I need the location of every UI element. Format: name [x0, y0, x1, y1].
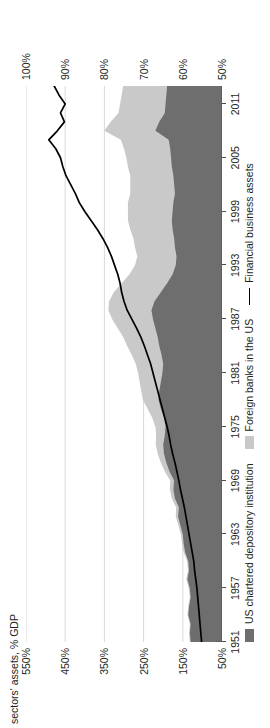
right-axis-tick-label: 100%: [20, 53, 32, 80]
x-axis-tick-label: 1975: [229, 415, 241, 438]
legend-line-swatch: [249, 288, 250, 305]
right-axis-tick-label: 90%: [59, 59, 71, 80]
x-axis-tick-mark: [222, 587, 226, 588]
right-axis-tick-label: 80%: [98, 59, 110, 80]
left-axis-tick-label: 450%: [59, 648, 71, 675]
x-axis-tick-mark: [222, 533, 226, 534]
x-axis-tick-mark: [222, 157, 226, 158]
plot-area: 50%150%250%350%450%550% 50%60%70%80%90%1…: [26, 86, 222, 642]
right-axis-tick-label: 70%: [138, 59, 150, 80]
left-axis-tick-label: 350%: [98, 648, 110, 675]
x-axis-tick-label: 1969: [229, 469, 241, 492]
x-axis-tick-label: 1957: [229, 577, 241, 600]
chart-svg: [26, 86, 222, 642]
x-axis-tick-mark: [222, 641, 226, 642]
x-axis-tick-mark: [222, 318, 226, 319]
rotated-chart-frame: sectors' assets, % GDP 50%150%250%350%45…: [0, 0, 270, 728]
x-axis-tick-label: 1987: [229, 307, 241, 330]
chart-legend: US chartered depository institutionForei…: [243, 163, 255, 642]
legend-label: Financial business assets: [243, 163, 255, 283]
chart-root: sectors' assets, % GDP 50%150%250%350%45…: [0, 0, 270, 728]
x-axis-tick-mark: [222, 372, 226, 373]
left-axis-tick-label: 50%: [216, 648, 228, 669]
x-axis-tick-mark: [222, 264, 226, 265]
x-axis-tick-mark: [222, 211, 226, 212]
legend-label: Foreign banks in the US: [243, 319, 255, 432]
x-axis-tick-label: 1963: [229, 523, 241, 546]
x-axis-tick-label: 1981: [229, 361, 241, 384]
left-axis-tick-label: 250%: [138, 648, 150, 675]
left-axis-tick-label: 550%: [20, 648, 32, 675]
legend-item[interactable]: US chartered depository institution: [243, 464, 255, 643]
x-axis-tick-label: 2005: [229, 146, 241, 169]
x-axis-tick-mark: [222, 480, 226, 481]
right-axis-tick-label: 50%: [216, 59, 228, 80]
left-axis-tick-label: 150%: [177, 648, 189, 675]
legend-item[interactable]: Financial business assets: [243, 163, 255, 305]
legend-label: US chartered depository institution: [243, 464, 255, 625]
legend-item[interactable]: Foreign banks in the US: [243, 319, 255, 450]
x-axis-tick-label: 1993: [229, 254, 241, 277]
x-axis-tick-label: 1951: [229, 630, 241, 653]
legend-color-swatch: [245, 437, 254, 450]
x-axis-tick-label: 2011: [229, 93, 241, 116]
legend-color-swatch: [245, 629, 254, 642]
x-axis-tick-mark: [222, 426, 226, 427]
x-axis-tick-mark: [222, 103, 226, 104]
right-axis-tick-label: 60%: [177, 59, 189, 80]
left-axis-title: sectors' assets, % GDP: [8, 614, 20, 724]
x-axis-tick-label: 1999: [229, 200, 241, 223]
